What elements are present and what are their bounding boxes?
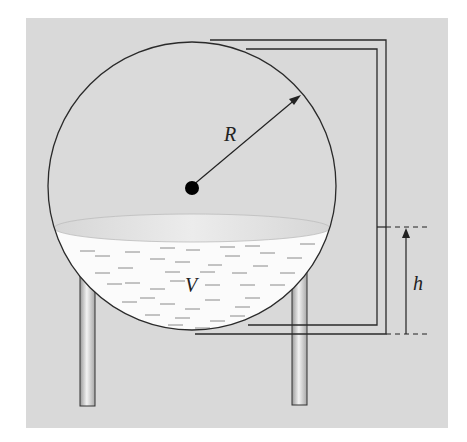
right-leg — [292, 270, 307, 405]
radius-label: R — [223, 123, 236, 145]
liquid-surface — [54, 214, 330, 242]
height-label: h — [413, 272, 423, 294]
center-point — [185, 181, 199, 195]
tank-diagram: R V h — [0, 0, 467, 442]
